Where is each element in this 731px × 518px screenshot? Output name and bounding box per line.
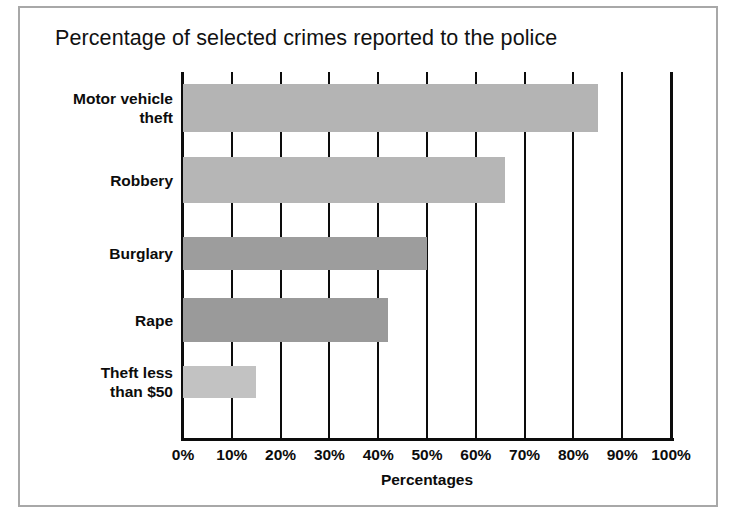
x-tick-label-10%: 10% — [216, 446, 247, 464]
x-tick-label-20%: 20% — [265, 446, 296, 464]
x-tick-label-90%: 90% — [607, 446, 638, 464]
bar — [183, 84, 598, 132]
chart-title: Percentage of selected crimes reported t… — [55, 26, 557, 51]
category-label: Theft less than $50 — [101, 363, 173, 401]
x-tick-label-100%: 100% — [651, 446, 691, 464]
x-tick-label-70%: 70% — [509, 446, 540, 464]
figure: Percentage of selected crimes reported t… — [0, 0, 731, 518]
bar — [183, 237, 427, 270]
category-label: Motor vehicle theft — [73, 89, 173, 127]
bar — [183, 157, 505, 203]
x-axis-label: Percentages — [381, 471, 473, 489]
category-label: Rape — [135, 311, 173, 330]
gridline-100 — [670, 72, 673, 438]
x-tick-label-80%: 80% — [558, 446, 589, 464]
x-tick-label-30%: 30% — [314, 446, 345, 464]
category-label: Burglary — [109, 244, 173, 263]
bar — [183, 298, 388, 342]
x-axis-spine — [181, 438, 674, 441]
plot-area: 0%10%20%30%40%50%60%70%80%90%100% Percen… — [183, 72, 671, 438]
category-axis-labels: Motor vehicle theftRobberyBurglaryRapeTh… — [0, 72, 173, 438]
x-tick-label-40%: 40% — [363, 446, 394, 464]
x-tick-label-60%: 60% — [460, 446, 491, 464]
category-label: Robbery — [110, 171, 173, 190]
gridline-90 — [621, 72, 623, 438]
x-tick-label-0%: 0% — [172, 446, 194, 464]
x-tick-label-50%: 50% — [411, 446, 442, 464]
bar — [183, 366, 256, 398]
